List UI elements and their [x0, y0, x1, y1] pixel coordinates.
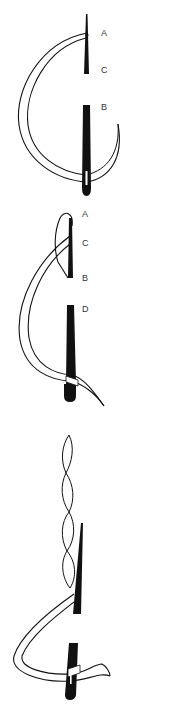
needle-upper-segment — [84, 14, 89, 74]
stitch-diagram-svg — [0, 0, 179, 708]
twisted-stitch-segment-3 — [62, 512, 73, 551]
thread-tail-right-inner — [86, 124, 118, 175]
label-b-fig1: B — [101, 103, 107, 112]
thread-band-outer — [19, 236, 104, 406]
label-c-fig2: C — [82, 239, 89, 248]
thread-hook-inner — [22, 602, 110, 676]
twisted-stitch-segment-1 — [62, 435, 72, 473]
needle-eye — [70, 674, 72, 684]
thread-curve-inner — [28, 38, 86, 175]
label-d-fig2: D — [82, 305, 89, 314]
needle-eye — [86, 171, 88, 185]
label-b-fig2: B — [82, 274, 88, 283]
figure-3 — [14, 435, 110, 700]
knot-point-a — [85, 33, 88, 36]
twisted-stitch-segment-4 — [63, 551, 75, 588]
twisted-stitch-segment-2 — [62, 473, 73, 512]
thread-hook-outer — [14, 594, 110, 681]
label-a-fig1: A — [101, 29, 107, 38]
figure-2 — [19, 213, 104, 406]
needle-lower-segment — [66, 305, 76, 384]
needle-lower-end — [64, 384, 76, 402]
needle-upper-segment — [68, 218, 73, 278]
label-a-fig2: A — [82, 210, 88, 219]
thread-curve-outer — [18, 33, 87, 182]
label-c-fig1: C — [101, 66, 108, 75]
stitch-diagram: A C B A C B D — [0, 0, 179, 708]
